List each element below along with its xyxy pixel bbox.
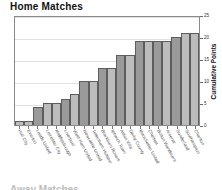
bar (15, 121, 24, 125)
x-axis-label-cell: Ipswich Town (107, 130, 116, 178)
chart-container: Home Matches 0510152025 Cumulative Point… (0, 0, 222, 190)
x-axis-label-cell: Sunderland (172, 130, 181, 178)
bar (43, 103, 52, 125)
bar (61, 99, 70, 125)
x-axis-label-cell: Southampton (181, 130, 190, 178)
bar (181, 33, 190, 125)
bar (89, 81, 98, 125)
x-axis-label-cell: Chelsea (144, 130, 153, 178)
y-axis-tick (200, 16, 203, 17)
y-axis-tick (200, 82, 203, 83)
y-axis-tick-label: 5 (204, 102, 207, 107)
bar (135, 41, 144, 125)
bar (144, 41, 153, 125)
x-axis-tick-label: Charlton (193, 129, 205, 146)
y-axis-tick-label: 0 (204, 124, 207, 129)
bar (171, 37, 180, 125)
y-axis-title-label: Cumulative Points (211, 43, 218, 99)
y-axis-title: Cumulative Points (208, 16, 220, 126)
x-axis-label-cell: Newcastle United (79, 130, 88, 178)
x-axis-label-cell: Leicester City (42, 130, 51, 178)
bar (116, 55, 125, 125)
x-axis-label-cell: Aston Villa (116, 130, 125, 178)
x-axis-label-cell: Arsenal (163, 130, 172, 178)
y-axis-tick (200, 38, 203, 39)
y-axis-tick (200, 104, 203, 105)
bar (153, 41, 162, 125)
x-axis-label-cell: Blackburn Rovers (98, 130, 107, 178)
x-axis-label-cell: Bolton Wanderers (153, 130, 162, 178)
x-axis-label-cell: West Ham United (70, 130, 79, 178)
bar (162, 41, 171, 125)
page-title: Home Matches (10, 1, 83, 12)
x-axis-label-cell: Charlton (191, 130, 200, 178)
x-axis-label-cell: Leeds United (33, 130, 42, 178)
x-axis-label-cell: Derby County (126, 130, 135, 178)
x-axis-label-cell: Hull City (14, 130, 23, 178)
x-axis-label-cell: Liverpool (60, 130, 69, 178)
plot-area (14, 16, 200, 126)
bar (98, 68, 107, 125)
y-axis-tick (200, 126, 203, 127)
y-axis-tick (200, 60, 203, 61)
x-axis-label-cell: Everton (23, 130, 32, 178)
x-axis-labels: Hull CityEvertonLeeds UnitedLeicester Ci… (14, 130, 200, 178)
bar (107, 68, 116, 125)
bar (79, 81, 88, 125)
bar (33, 107, 42, 125)
bar (125, 55, 134, 125)
bar (24, 121, 33, 125)
x-axis-label-cell: Manchester United (135, 130, 144, 178)
bar-series (15, 17, 199, 125)
bar (190, 33, 199, 125)
next-chart-title: Away Matches (10, 184, 79, 190)
bar (70, 94, 79, 125)
bar (52, 103, 61, 125)
x-axis-label-cell: Tottenham Hotspur (88, 130, 97, 178)
x-axis-label-cell: Middlesbrough (51, 130, 60, 178)
